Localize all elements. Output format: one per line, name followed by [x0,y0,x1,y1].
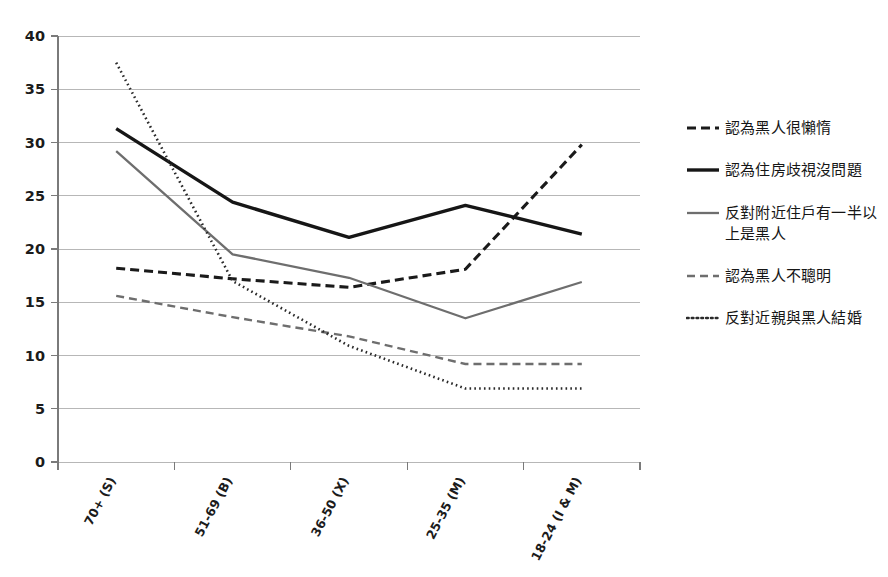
x-axis-tick-label: 18-24 (I & M) [528,474,585,563]
legend-item[interactable]: 反對近親與黑人結婚 [686,308,886,329]
y-axis-tick-label: 0 [35,454,45,470]
legend-line-swatch-icon [686,266,720,284]
legend-item-label: 反對近親與黑人結婚 [725,308,862,329]
tickmarks-group [51,36,640,470]
legend-item[interactable]: 認為黑人很懶惰 [686,118,886,139]
line-chart-svg: 0510152025303540 70+ (S)51-69 (B)36-50 (… [0,0,660,577]
legend-line-swatch-icon [686,160,720,178]
y-axis-tick-label: 25 [25,188,45,204]
legend-item-label: 認為黑人不聰明 [725,266,831,287]
y-axis-tick-label: 30 [25,135,45,151]
legend-item[interactable]: 認為黑人不聰明 [686,266,886,287]
y-axis-tick-label: 40 [25,28,45,44]
y-axis-tick-label: 15 [25,294,45,310]
legend-item[interactable]: 反對附近住戶有一半以上是黑人 [686,203,886,246]
legend-item-label: 反對附近住戶有一半以上是黑人 [725,203,885,246]
series-line [116,129,582,238]
y-axis-tick-label: 5 [35,401,45,417]
chart-legend: 認為黑人很懶惰認為住房歧視沒問題反對附近住戶有一半以上是黑人認為黑人不聰明反對近… [686,118,886,351]
y-axis-tick-label: 10 [25,348,45,364]
x-axis-tick-label: 70+ (S) [81,474,119,528]
x-axis-labels-group: 70+ (S)51-69 (B)36-50 (X)25-35 (M)18-24 … [81,474,585,563]
y-axis-tick-label: 35 [25,81,45,97]
legend-line-swatch-icon [686,118,720,136]
chart-container: 0510152025303540 70+ (S)51-69 (B)36-50 (… [0,0,888,577]
y-axis-labels-group: 0510152025303540 [25,28,45,470]
legend-item[interactable]: 認為住房歧視沒問題 [686,160,886,181]
legend-line-swatch-icon [686,308,720,326]
legend-item-label: 認為住房歧視沒問題 [725,160,862,181]
plot-area: 0510152025303540 70+ (S)51-69 (B)36-50 (… [0,0,660,577]
y-axis-tick-label: 20 [25,241,45,257]
series-line [116,63,582,389]
series-line [116,296,582,364]
legend-item-label: 認為黑人很懶惰 [725,118,831,139]
x-axis-tick-label: 25-35 (M) [423,474,468,541]
legend-line-swatch-icon [686,203,720,221]
x-axis-tick-label: 51-69 (B) [191,474,235,539]
series-group [116,63,582,389]
gridlines-group [58,36,640,462]
series-line [116,151,582,318]
x-axis-tick-label: 36-50 (X) [308,474,352,539]
